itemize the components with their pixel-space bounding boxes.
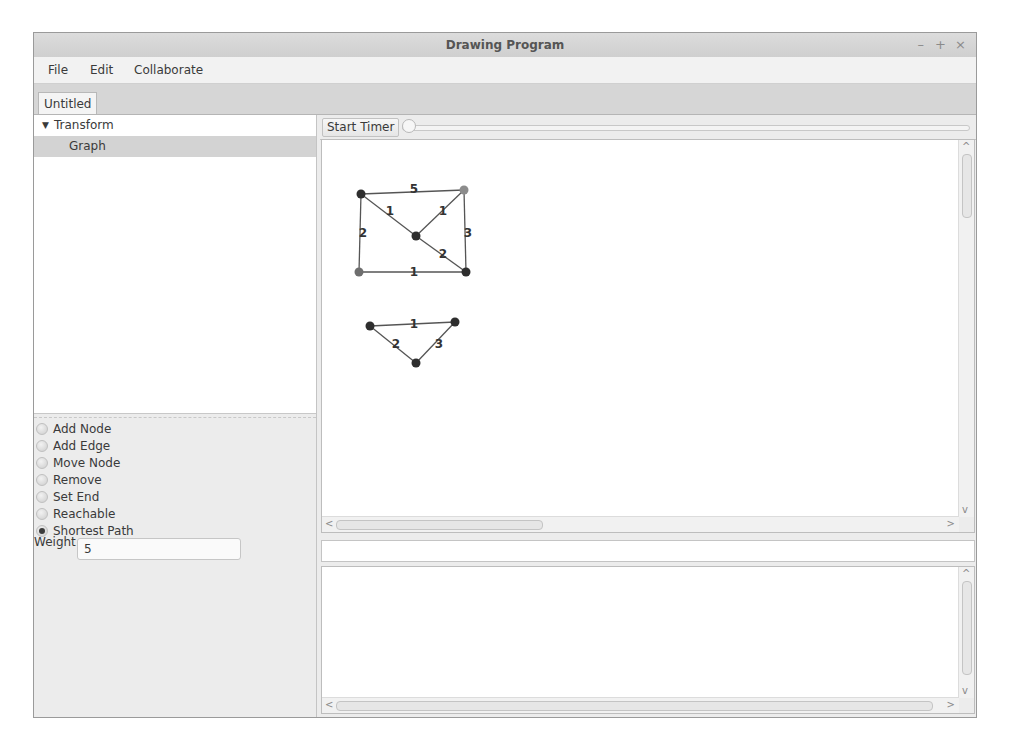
graph-drawing[interactable]: 5121321123	[322, 140, 942, 520]
timer-slider-track[interactable]	[402, 125, 970, 131]
scroll-up-arrow-icon[interactable]: ^	[962, 569, 970, 579]
menu-bar: File Edit Collaborate	[34, 57, 976, 84]
horizontal-scroll-thumb[interactable]	[336, 520, 543, 530]
status-field[interactable]	[321, 540, 975, 562]
document-tabs: Untitled	[34, 84, 976, 115]
vertical-scroll-thumb[interactable]	[962, 154, 972, 218]
graph-node[interactable]	[355, 268, 364, 277]
scroll-up-arrow-icon[interactable]: ^	[962, 142, 970, 152]
menu-collaborate[interactable]: Collaborate	[134, 63, 203, 77]
radio-button[interactable]	[36, 440, 48, 452]
scroll-corner	[959, 517, 974, 532]
tab-untitled[interactable]: Untitled	[38, 92, 97, 114]
scroll-right-arrow-icon[interactable]: >	[947, 519, 955, 529]
left-pane: ▼ Transform Graph Add Node Add Edge Move…	[34, 115, 317, 717]
scroll-corner	[959, 698, 974, 713]
graph-node[interactable]	[451, 318, 460, 327]
transform-tree: ▼ Transform Graph	[34, 115, 316, 414]
graph-node[interactable]	[357, 190, 366, 199]
weight-label: Weight	[34, 535, 76, 549]
radio-label: Remove	[53, 472, 102, 489]
tree-item-graph[interactable]: Graph	[34, 136, 316, 157]
radio-label: Move Node	[53, 455, 120, 472]
maximize-icon[interactable]: +	[935, 37, 946, 52]
graph-node[interactable]	[460, 186, 469, 195]
minimize-icon[interactable]: –	[918, 37, 925, 52]
radio-button[interactable]	[36, 423, 48, 435]
app-window: Drawing Program – + × File Edit Collabor…	[33, 32, 977, 718]
edge-weight-label: 1	[410, 265, 418, 279]
tree-item-label: Transform	[54, 115, 114, 136]
horizontal-scroll-thumb[interactable]	[336, 701, 933, 711]
timer-toolbar: Start Timer	[320, 115, 976, 140]
scroll-down-arrow-icon[interactable]: v	[962, 505, 968, 515]
radio-button[interactable]	[36, 474, 48, 486]
scroll-down-arrow-icon[interactable]: v	[962, 686, 968, 696]
scroll-left-arrow-icon[interactable]: <	[325, 519, 333, 529]
edge-weight-label: 1	[439, 204, 447, 218]
weight-input[interactable]	[77, 538, 241, 560]
edge-weight-label: 1	[410, 317, 418, 331]
graph-node[interactable]	[412, 359, 421, 368]
expand-triangle-icon[interactable]: ▼	[42, 115, 49, 136]
tree-item-label: Graph	[69, 136, 106, 157]
radio-button[interactable]	[36, 457, 48, 469]
radio-label: Set End	[53, 489, 99, 506]
timer-slider-thumb[interactable]	[402, 119, 416, 133]
radio-label: Reachable	[53, 506, 115, 523]
canvas-vertical-scrollbar[interactable]: ^ v	[958, 140, 974, 517]
radio-label: Add Node	[53, 421, 111, 438]
edge-weight-label: 3	[464, 226, 472, 240]
graph-node[interactable]	[462, 268, 471, 277]
radio-button[interactable]	[36, 491, 48, 503]
start-timer-button[interactable]: Start Timer	[322, 118, 399, 137]
menu-file[interactable]: File	[48, 63, 68, 77]
window-title: Drawing Program	[34, 38, 976, 52]
log-scroll-pane: ^ v < >	[321, 566, 975, 714]
log-vertical-scrollbar[interactable]: ^ v	[958, 567, 974, 698]
canvas-scroll-pane: 5121321123 ^ v < >	[321, 139, 975, 533]
radio-label: Add Edge	[53, 438, 110, 455]
scroll-left-arrow-icon[interactable]: <	[325, 700, 333, 710]
menu-edit[interactable]: Edit	[90, 63, 113, 77]
edge-weight-label: 1	[386, 204, 394, 218]
radio-button[interactable]	[36, 508, 48, 520]
log-horizontal-scrollbar[interactable]: < >	[322, 697, 959, 713]
split-divider[interactable]	[34, 413, 316, 418]
graph-node[interactable]	[412, 232, 421, 241]
tree-item-transform[interactable]: ▼ Transform	[34, 115, 316, 136]
edge-weight-label: 2	[359, 226, 367, 240]
edge-weight-label: 5	[410, 182, 418, 196]
drawing-canvas[interactable]: 5121321123	[322, 140, 958, 516]
edge-weight-label: 2	[392, 337, 400, 351]
edge-weight-label: 3	[435, 337, 443, 351]
log-text-area[interactable]	[322, 567, 958, 697]
graph-node[interactable]	[366, 322, 375, 331]
vertical-scroll-thumb[interactable]	[962, 581, 972, 675]
right-pane: Start Timer 5121321123 ^ v < >	[320, 115, 976, 717]
title-bar[interactable]: Drawing Program – + ×	[34, 33, 976, 58]
close-icon[interactable]: ×	[955, 37, 966, 52]
scroll-right-arrow-icon[interactable]: >	[947, 700, 955, 710]
edge-weight-label: 2	[439, 247, 447, 261]
canvas-horizontal-scrollbar[interactable]: < >	[322, 516, 959, 532]
